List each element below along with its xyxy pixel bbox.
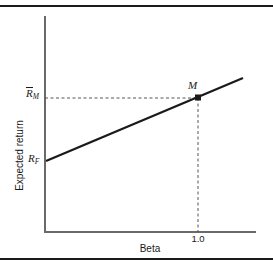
x-tick-label-1: 1.0 bbox=[183, 233, 213, 244]
y-axis-line bbox=[44, 16, 46, 233]
security-market-line bbox=[46, 78, 243, 161]
rf-subscript: F bbox=[35, 157, 40, 166]
top-rule bbox=[0, 5, 273, 7]
market-point-label: M bbox=[188, 79, 197, 91]
figure-container: Expected return Beta 1.0 RM RF M bbox=[0, 0, 273, 273]
rf-intercept-label: RF bbox=[28, 152, 39, 166]
rm-base-letter: R bbox=[26, 87, 33, 100]
rf-base-letter: R bbox=[28, 152, 35, 164]
x-axis-line bbox=[44, 231, 256, 233]
market-point-marker bbox=[195, 95, 201, 101]
y-axis-title: Expected return bbox=[14, 106, 25, 206]
rm-subscript: M bbox=[33, 92, 39, 101]
rm-level-label: RM bbox=[26, 87, 39, 101]
bottom-rule bbox=[0, 258, 273, 260]
x-axis-title: Beta bbox=[100, 243, 200, 254]
